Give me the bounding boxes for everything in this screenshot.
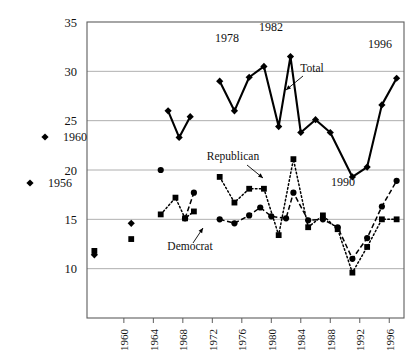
- x-tick-label: 1964: [148, 329, 160, 352]
- year-annotation-1978: 1978: [215, 31, 239, 45]
- data-point: [158, 212, 164, 218]
- data-point: [216, 78, 223, 85]
- data-point: [320, 216, 326, 222]
- x-tick-label: 1992: [354, 329, 366, 351]
- data-point: [335, 224, 341, 230]
- x-tick-label: 1972: [207, 329, 219, 351]
- data-point: [305, 217, 311, 223]
- data-point: [231, 107, 238, 114]
- gridlines: [87, 71, 404, 268]
- annotations: 195619601978198219961990TotalRepublicanD…: [26, 20, 392, 252]
- data-point: [276, 232, 282, 238]
- year-annotation-1960: 1960: [63, 130, 87, 144]
- data-point: [287, 53, 294, 60]
- data-point: [182, 215, 188, 221]
- data-point: [191, 209, 197, 215]
- data-point: [164, 107, 171, 114]
- democrat-arrow-head: [199, 228, 203, 233]
- y-tick-label: 35: [65, 16, 78, 30]
- data-point: [231, 220, 237, 226]
- x-tick-label: 1980: [266, 329, 278, 352]
- data-point: [349, 270, 355, 276]
- series-label-total: Total: [300, 62, 323, 74]
- data-point: [364, 235, 370, 241]
- legend-diamond-marker: [26, 179, 33, 186]
- data-point: [268, 213, 274, 219]
- data-point: [128, 220, 135, 227]
- x-tick-label: 1988: [325, 329, 337, 352]
- data-point: [275, 123, 282, 130]
- series-label-republican: Republican: [207, 150, 260, 163]
- y-tick-label: 10: [65, 262, 78, 276]
- year-annotation-1982: 1982: [259, 20, 283, 34]
- y-axis: 101520253035: [65, 16, 78, 277]
- x-tick-label: 1976: [236, 329, 248, 352]
- data-point: [246, 186, 252, 192]
- data-point: [191, 190, 197, 196]
- y-tick-label: 25: [65, 114, 78, 128]
- data-point: [217, 174, 223, 180]
- data-point: [173, 195, 179, 201]
- data-point: [349, 256, 355, 262]
- x-tick-label: 1968: [177, 329, 189, 352]
- data-point: [246, 212, 252, 218]
- data-point: [364, 244, 370, 250]
- year-annotation-1990: 1990: [331, 175, 355, 189]
- data-point: [217, 216, 223, 222]
- data-point: [158, 167, 164, 173]
- series-line: [185, 193, 194, 219]
- year-annotation-1956: 1956: [48, 176, 72, 190]
- data-point: [261, 186, 267, 192]
- y-tick-label: 30: [65, 65, 78, 79]
- line-chart: 1015202530351960196419681972197619801984…: [0, 0, 415, 358]
- legend-diamond-marker: [41, 133, 48, 140]
- data-point: [379, 216, 385, 222]
- data-point: [91, 248, 97, 254]
- x-tick-label: 1996: [384, 329, 396, 352]
- year-annotation-1996: 1996: [368, 37, 392, 51]
- data-point: [290, 190, 296, 196]
- data-point: [379, 203, 385, 209]
- data-point: [128, 236, 134, 242]
- x-tick-label: 1960: [118, 329, 130, 352]
- data-point: [291, 156, 297, 162]
- x-tick-label: 1984: [295, 329, 307, 352]
- x-axis: 1960196419681972197619801984198819921996: [118, 318, 395, 351]
- data-point: [283, 215, 289, 221]
- data-point: [394, 178, 400, 184]
- data-point: [257, 204, 263, 210]
- series-line: [168, 111, 190, 138]
- data-point: [394, 216, 400, 222]
- data-point: [232, 200, 238, 206]
- chart-container: 1015202530351960196419681972197619801984…: [0, 0, 415, 358]
- series-label-democrat: Democrat: [167, 240, 213, 252]
- data-point: [305, 224, 311, 230]
- y-tick-label: 15: [65, 213, 78, 227]
